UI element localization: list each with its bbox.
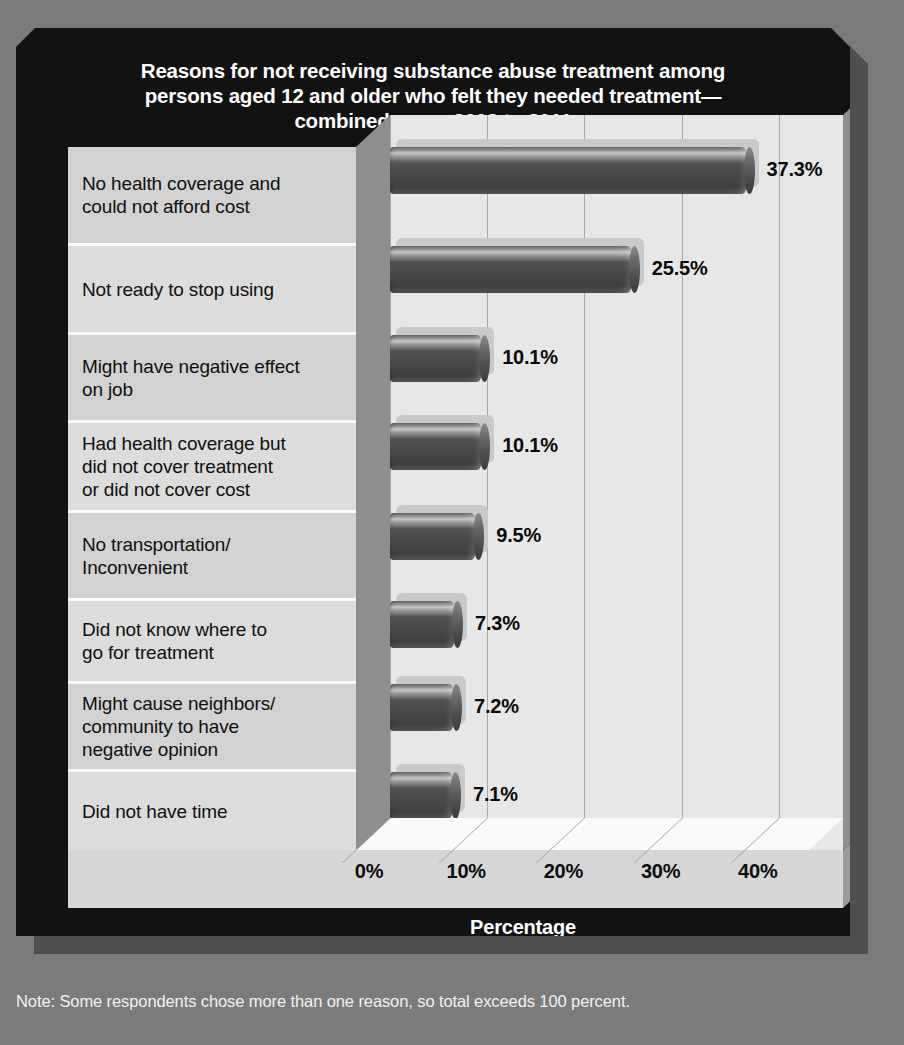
bar-value-label: 25.5% — [652, 257, 708, 280]
bar[interactable] — [390, 513, 478, 560]
bar-end-cap — [451, 684, 462, 731]
bar-end-cap — [744, 147, 755, 194]
bar-slot: 10.1% — [390, 335, 843, 423]
category-label-line: go for treatment — [82, 641, 267, 664]
bar-value-label: 7.3% — [475, 612, 520, 635]
floor-top-surface — [356, 818, 843, 850]
category-label-text: Might have negative effecton job — [82, 355, 300, 401]
category-label-row: Did not know where togo for treatment — [68, 601, 356, 684]
bar-slot: 9.5% — [390, 513, 843, 601]
bar-slot: 25.5% — [390, 246, 843, 335]
chart-note: Note: Some respondents chose more than o… — [16, 992, 630, 1011]
bar[interactable] — [390, 423, 484, 470]
bar-end-cap — [629, 246, 640, 293]
bars-layer: 37.3%25.5%10.1%10.1%9.5%7.3%7.2%7.1% — [390, 115, 843, 850]
category-label-line: Inconvenient — [82, 556, 230, 579]
category-label-text: Might cause neighbors/community to haven… — [82, 692, 275, 761]
bar-value-label: 10.1% — [502, 346, 558, 369]
bar[interactable] — [390, 147, 749, 194]
bar-value-label: 37.3% — [767, 158, 823, 181]
x-axis-tick-label: 0% — [355, 860, 384, 883]
category-label-line: Might cause neighbors/ — [82, 692, 275, 715]
bar[interactable] — [390, 684, 456, 731]
x-axis-title: Percentage — [16, 916, 850, 936]
category-label-text: Did not know where togo for treatment — [82, 618, 267, 664]
category-label-line: negative opinion — [82, 738, 275, 761]
category-label-line: community to have — [82, 715, 275, 738]
category-label-row: Not ready to stop using — [68, 246, 356, 335]
category-label-line: on job — [82, 378, 300, 401]
category-label-text: No transportation/Inconvenient — [82, 533, 230, 579]
category-label-row: No transportation/Inconvenient — [68, 513, 356, 601]
bar[interactable] — [390, 601, 457, 648]
category-label-line: Not ready to stop using — [82, 278, 274, 301]
bar-end-cap — [450, 772, 461, 819]
bar[interactable] — [390, 246, 634, 293]
bar-slot: 7.3% — [390, 601, 843, 684]
bar-value-label: 9.5% — [496, 524, 541, 547]
label-panel-side-wall — [356, 115, 390, 850]
x-axis-tick-label: 20% — [544, 860, 583, 883]
bar-value-label: 7.2% — [474, 695, 519, 718]
bar-slot: 7.2% — [390, 684, 843, 772]
category-label-line: or did not cover cost — [82, 478, 286, 501]
bar-value-label: 7.1% — [473, 783, 518, 806]
category-label-line: could not afford cost — [82, 195, 280, 218]
plot-right-side-wall — [843, 83, 850, 850]
category-label-text: Not ready to stop using — [82, 278, 274, 301]
plot-area: 37.3%25.5%10.1%10.1%9.5%7.3%7.2%7.1% — [390, 115, 843, 850]
category-label-line: Did not know where to — [82, 618, 267, 641]
x-axis-tick-label: 10% — [446, 860, 485, 883]
category-label-row: No health coverage andcould not afford c… — [68, 147, 356, 246]
category-label-line: No health coverage and — [82, 172, 280, 195]
x-axis-tick-label: 30% — [641, 860, 680, 883]
category-label-line: Had health coverage but — [82, 432, 286, 455]
clipped-top-text — [0, 0, 904, 6]
category-label-line: Did not have time — [82, 800, 227, 823]
bar[interactable] — [390, 772, 455, 819]
category-label-panel: No health coverage andcould not afford c… — [68, 147, 356, 850]
category-label-text: Did not have time — [82, 800, 227, 823]
chart-panel: Reasons for not receiving substance abus… — [16, 28, 850, 936]
x-axis-tick-label: 40% — [738, 860, 777, 883]
category-label-line: did not cover treatment — [82, 455, 286, 478]
bar-slot: 10.1% — [390, 423, 843, 513]
bar-end-cap — [452, 601, 463, 648]
bar-slot: 37.3% — [390, 147, 843, 246]
plot-stage: 37.3%25.5%10.1%10.1%9.5%7.3%7.2%7.1% No … — [16, 28, 850, 936]
category-label-text: Had health coverage butdid not cover tre… — [82, 432, 286, 501]
category-label-line: No transportation/ — [82, 533, 230, 556]
category-label-text: No health coverage andcould not afford c… — [82, 172, 280, 218]
category-label-row: Had health coverage butdid not cover tre… — [68, 423, 356, 513]
category-label-row: Might cause neighbors/community to haven… — [68, 684, 356, 772]
category-label-row: Did not have time — [68, 772, 356, 850]
bar-value-label: 10.1% — [502, 434, 558, 457]
bar[interactable] — [390, 335, 484, 382]
category-label-line: Might have negative effect — [82, 355, 300, 378]
category-label-row: Might have negative effecton job — [68, 335, 356, 423]
